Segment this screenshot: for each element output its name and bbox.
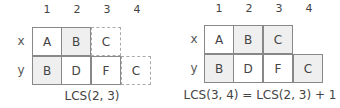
- cell-x1: A: [32, 27, 62, 56]
- column-number-4: 4: [294, 2, 324, 15]
- column-number-3: 3: [92, 3, 122, 16]
- cell-x1: A: [204, 25, 234, 54]
- column-number-1: 1: [204, 2, 234, 15]
- row-label-y: y: [14, 63, 28, 77]
- cell-y2: D: [61, 56, 91, 85]
- cell-x2: B: [61, 27, 91, 56]
- column-number-4: 4: [122, 3, 152, 16]
- right-diagram: 1 2 3 4 x y A B C B D F C LCS(3, 4) = LC…: [170, 0, 340, 108]
- cell-y1: B: [32, 56, 62, 85]
- left-diagram: 1 2 3 4 x y A B C B D F C LCS(2, 3): [0, 0, 170, 108]
- cell-y4: C: [121, 56, 151, 85]
- column-number-2: 2: [62, 3, 92, 16]
- row-label-x: x: [187, 32, 201, 46]
- column-number-2: 2: [234, 2, 264, 15]
- cell-y1: B: [204, 54, 234, 83]
- row-label-x: x: [14, 34, 28, 48]
- column-number-1: 1: [32, 3, 62, 16]
- right-caption: LCS(3, 4) = LCS(2, 3) + 1: [180, 88, 340, 102]
- cell-y2: D: [233, 54, 263, 83]
- column-number-3: 3: [264, 2, 294, 15]
- cell-x2: B: [233, 25, 263, 54]
- cell-x3: C: [263, 25, 293, 54]
- left-caption: LCS(2, 3): [32, 89, 152, 103]
- cell-y3: F: [263, 54, 293, 83]
- cell-x3: C: [91, 27, 121, 56]
- cell-y3: F: [91, 56, 121, 85]
- cell-y4: C: [293, 54, 323, 83]
- row-label-y: y: [187, 61, 201, 75]
